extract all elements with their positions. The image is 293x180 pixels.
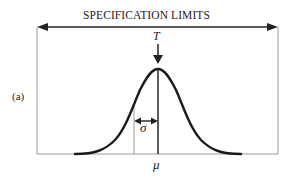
- mean-label: μ: [153, 157, 160, 173]
- target-down-arrow-icon: [153, 44, 163, 64]
- target-label: T: [153, 29, 160, 44]
- sigma-label: σ: [140, 120, 146, 136]
- normal-distribution-figure: [0, 0, 293, 180]
- panel-label: (a): [12, 90, 24, 102]
- specification-limits-title: SPECIFICATION LIMITS: [0, 9, 293, 21]
